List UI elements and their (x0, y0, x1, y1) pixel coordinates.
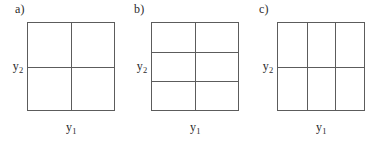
panel-c: c)y2y1 (0, 0, 124, 141)
y2-axis-label-base-b: y (137, 59, 143, 73)
y1-axis-label-b: y1 (175, 121, 215, 135)
grid-b-horizontal-divider-2 (152, 81, 238, 82)
y1-axis-label-subscript-b: 1 (196, 126, 200, 136)
figure-partition-diagrams: a)y2y1b)y2y1c)y2y1 (0, 0, 372, 141)
grid-b-vertical-divider-1 (195, 23, 196, 110)
y1-axis-label-base-b: y (190, 120, 196, 134)
y2-axis-label-subscript-c: 2 (269, 65, 273, 75)
y2-axis-label-b: y2 (127, 60, 147, 74)
grid-b-horizontal-divider-1 (152, 52, 238, 53)
grid-b (151, 22, 239, 111)
panel-label-c: c) (259, 2, 269, 16)
y1-axis-label-base-c: y (316, 120, 322, 134)
grid-c (277, 22, 365, 111)
y1-axis-label-subscript-c: 1 (322, 126, 326, 136)
panel-label-b: b) (134, 2, 144, 16)
y2-axis-label-subscript-b: 2 (143, 65, 147, 75)
y2-axis-label-base-c: y (263, 59, 269, 73)
y1-axis-label-c: y1 (301, 121, 341, 135)
y2-axis-label-c: y2 (253, 60, 273, 74)
grid-c-horizontal-divider-1 (278, 67, 364, 68)
